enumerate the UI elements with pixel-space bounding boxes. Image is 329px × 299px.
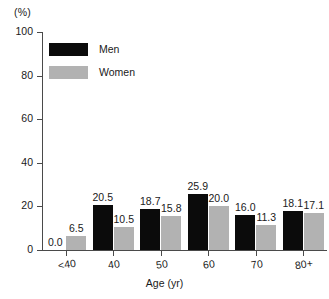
y-tick-label: 100: [0, 25, 33, 37]
x-axis-title: Age (yr): [0, 277, 329, 289]
x-tick-mark: [256, 251, 257, 256]
men-bar-value-label: 25.9: [182, 180, 214, 192]
y-axis-line: [42, 32, 43, 251]
legend-item-men: Men: [49, 40, 135, 58]
x-tick-mark: [303, 251, 304, 256]
legend: Men Women: [49, 40, 135, 86]
women-bar: [114, 227, 134, 250]
women-bar-value-label: 6.5: [60, 222, 92, 234]
y-tick-label: 80: [0, 69, 33, 81]
x-tick-label: 70: [232, 255, 281, 274]
y-tick-mark: [37, 119, 42, 120]
x-tick-label: 80+: [279, 255, 328, 274]
men-swatch-icon: [49, 43, 88, 56]
y-tick-label: 20: [0, 199, 33, 211]
x-tick-mark: [208, 251, 209, 256]
legend-label-women: Women: [99, 66, 135, 78]
x-tick-label: 50: [137, 255, 186, 274]
women-bar-value-label: 15.8: [155, 202, 187, 214]
x-axis-line: [42, 250, 327, 251]
women-bar: [256, 225, 276, 250]
x-tick-mark: [66, 251, 67, 256]
women-bar: [304, 213, 324, 250]
women-swatch-icon: [49, 66, 88, 79]
y-tick-mark: [37, 32, 42, 33]
women-bar-value-label: 10.5: [108, 213, 140, 225]
y-tick-label: 60: [0, 112, 33, 124]
x-tick-label: 40: [89, 255, 138, 274]
y-tick-label: 0: [0, 243, 33, 255]
y-tick-label: 40: [0, 156, 33, 168]
y-tick-mark: [37, 250, 42, 251]
y-tick-mark: [37, 76, 42, 77]
legend-label-men: Men: [99, 43, 119, 55]
x-tick-mark: [113, 251, 114, 256]
x-tick-label: 60: [184, 255, 233, 274]
x-tick-mark: [161, 251, 162, 256]
men-bar: [283, 211, 303, 250]
men-bar: [140, 209, 160, 250]
women-bar: [66, 236, 86, 250]
women-bar-value-label: 11.3: [250, 211, 282, 223]
y-tick-mark: [37, 206, 42, 207]
bar-chart: (%) 020406080100 <404050607080+ 0.06.520…: [0, 0, 329, 299]
women-bar: [209, 206, 229, 250]
legend-item-women: Women: [49, 63, 135, 81]
women-bar-value-label: 17.1: [298, 199, 329, 211]
x-tick-label: <40: [42, 255, 91, 274]
women-bar: [161, 216, 181, 250]
y-axis-unit-label: (%): [14, 6, 31, 18]
men-bar: [93, 205, 113, 250]
y-tick-mark: [37, 163, 42, 164]
men-bar-value-label: 20.5: [87, 191, 119, 203]
